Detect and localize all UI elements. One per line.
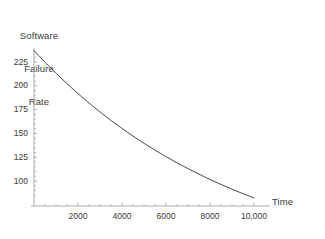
x-axis-tick-label: 4000: [100, 212, 144, 221]
chart-container: Software Failure Rate Time 2252001751501…: [0, 0, 325, 239]
data-series-line-0: [34, 51, 254, 198]
plot-area: [0, 0, 325, 239]
y-axis-tick-label: 125: [4, 153, 28, 162]
x-axis-tick-label: 10,000: [232, 212, 276, 221]
x-axis-tick-label: 6000: [144, 212, 188, 221]
axes-group: [31, 48, 270, 206]
y-axis-tick-label: 100: [4, 177, 28, 186]
y-axis-tick-label: 200: [4, 81, 28, 90]
ticks-group: [34, 52, 254, 206]
x-axis-tick-label: 2000: [56, 212, 100, 221]
y-axis-tick-label: 225: [4, 58, 28, 67]
x-axis-tick-label: 8000: [188, 212, 232, 221]
y-axis-tick-label: 150: [4, 129, 28, 138]
series-group: [34, 51, 254, 198]
y-axis-tick-label: 175: [4, 105, 28, 114]
